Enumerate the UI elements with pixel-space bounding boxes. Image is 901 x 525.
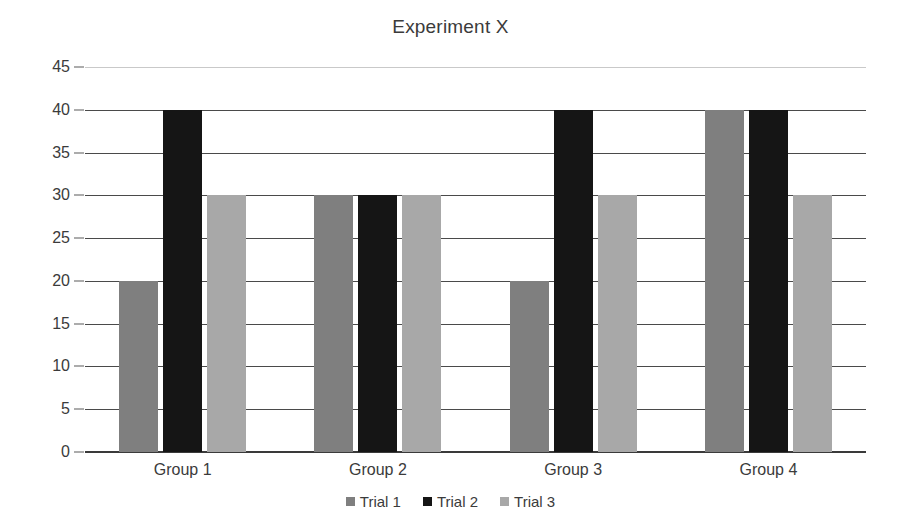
- y-tick-label-0: 0: [0, 444, 70, 460]
- y-tick-mark-40: [74, 109, 84, 110]
- legend-swatch-icon-2: [423, 497, 432, 506]
- y-tick-label-25: 25: [0, 230, 70, 246]
- gridline-45: [85, 67, 866, 68]
- y-tick-mark-20: [74, 280, 84, 281]
- y-tick-mark-10: [74, 366, 84, 367]
- plot-area: [85, 67, 866, 452]
- bar-group-3-trial-3: [598, 195, 637, 452]
- y-tick-mark-45: [74, 67, 84, 68]
- legend-item-trial-1[interactable]: Trial 1: [346, 494, 401, 509]
- x-tick-label-3: Group 3: [476, 460, 671, 481]
- y-tick-label-15: 15: [0, 316, 70, 332]
- y-tick-mark-35: [74, 152, 84, 153]
- y-tick-label-35: 35: [0, 145, 70, 161]
- y-tick-label-45: 45: [0, 59, 70, 75]
- y-tick-mark-25: [74, 238, 84, 239]
- bar-group-3-trial-1: [510, 281, 549, 452]
- chart-title: Experiment X: [0, 16, 901, 38]
- y-tick-label-20: 20: [0, 273, 70, 289]
- x-axis: Group 1Group 2Group 3Group 4: [85, 460, 866, 486]
- legend-item-trial-3[interactable]: Trial 3: [500, 494, 555, 509]
- y-tick-mark-15: [74, 323, 84, 324]
- x-tick-label-4: Group 4: [671, 460, 866, 481]
- x-tick-label-2: Group 2: [280, 460, 475, 481]
- y-tick-mark-30: [74, 195, 84, 196]
- bar-group-1-trial-1: [119, 281, 158, 452]
- legend-item-trial-2[interactable]: Trial 2: [423, 494, 478, 509]
- y-tick-mark-5: [74, 409, 84, 410]
- legend-swatch-icon-1: [346, 497, 355, 506]
- legend-label: Trial 2: [437, 494, 478, 509]
- y-tick-label-30: 30: [0, 187, 70, 203]
- y-tick-label-10: 10: [0, 358, 70, 374]
- bar-group-4-trial-2: [749, 110, 788, 452]
- y-tick-mark-0: [74, 452, 84, 453]
- bar-group-2-trial-1: [314, 195, 353, 452]
- x-tick-label-1: Group 1: [85, 460, 280, 481]
- legend-label: Trial 3: [514, 494, 555, 509]
- bar-group-1-trial-3: [207, 195, 246, 452]
- chart-legend: Trial 1Trial 2Trial 3: [0, 494, 901, 509]
- bar-group-3-trial-2: [554, 110, 593, 452]
- bar-group-4-trial-3: [793, 195, 832, 452]
- y-axis: 051015202530354045: [0, 67, 70, 452]
- bar-group-2-trial-2: [358, 195, 397, 452]
- y-tick-label-40: 40: [0, 102, 70, 118]
- y-tick-label-5: 5: [0, 401, 70, 417]
- bar-group-2-trial-3: [402, 195, 441, 452]
- bar-group-4-trial-1: [705, 110, 744, 452]
- bar-chart: Experiment X 051015202530354045 Group 1G…: [0, 0, 901, 525]
- bar-group-1-trial-2: [163, 110, 202, 452]
- legend-label: Trial 1: [360, 494, 401, 509]
- legend-swatch-icon-3: [500, 497, 509, 506]
